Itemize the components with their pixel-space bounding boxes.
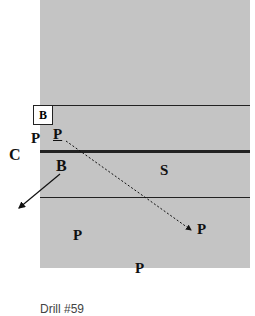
caption: Drill #59 xyxy=(40,302,84,316)
solid-arrow-b-to-left xyxy=(19,174,60,208)
dashed-arrow-p-to-p xyxy=(66,141,191,230)
